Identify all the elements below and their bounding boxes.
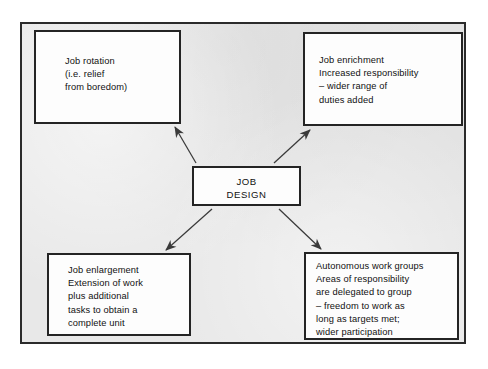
node-job-design-label: JOB DESIGN [194, 175, 299, 201]
node-job-rotation: Job rotation (i.e. relief from boredom) [34, 30, 181, 124]
node-job-rotation-label: Job rotation (i.e. relief from boredom) [36, 55, 179, 95]
node-job-enrichment-label: Job enrichment Increased responsibility … [305, 54, 461, 107]
node-job-design-center: JOB DESIGN [192, 166, 301, 206]
diagram-canvas: Job rotation (i.e. relief from boredom) … [0, 0, 488, 369]
node-job-enrichment: Job enrichment Increased responsibility … [303, 32, 463, 126]
node-autonomous-work-groups: Autonomous work groups Areas of responsi… [304, 252, 459, 340]
node-job-enlargement-label: Job enlargement Extension of work plus a… [49, 264, 189, 330]
node-autonomous-work-groups-label: Autonomous work groups Areas of responsi… [306, 260, 457, 339]
node-job-enlargement: Job enlargement Extension of work plus a… [47, 253, 191, 336]
